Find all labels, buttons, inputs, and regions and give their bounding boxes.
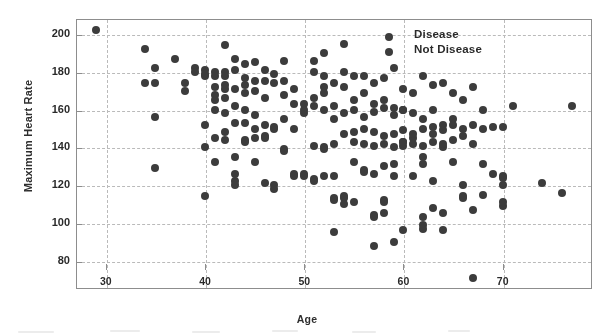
- data-point: [320, 89, 328, 97]
- data-point: [479, 191, 487, 199]
- data-point: [489, 170, 497, 178]
- legend-marker-icon: [385, 48, 393, 56]
- data-point: [479, 125, 487, 133]
- data-point: [409, 89, 417, 97]
- data-point: [221, 72, 229, 80]
- data-point: [479, 106, 487, 114]
- data-point: [201, 72, 209, 80]
- data-point: [439, 140, 447, 148]
- data-point: [350, 72, 358, 80]
- data-point: [241, 138, 249, 146]
- data-point: [370, 128, 378, 136]
- data-point: [350, 138, 358, 146]
- data-point: [390, 238, 398, 246]
- data-point: [360, 125, 368, 133]
- x-tick-mark: [403, 264, 404, 270]
- scan-artifact: [272, 330, 298, 332]
- x-tick-mark: [205, 264, 206, 270]
- x-tick-mark: [304, 264, 305, 270]
- data-point: [261, 179, 269, 187]
- y-tick-label: 80: [26, 254, 70, 266]
- data-point: [360, 113, 368, 121]
- data-point: [419, 142, 427, 150]
- gridline-horizontal: [77, 224, 591, 225]
- y-tick-mark: [77, 35, 82, 36]
- data-point: [390, 143, 398, 151]
- data-point: [390, 172, 398, 180]
- x-axis-label: Age: [0, 313, 614, 325]
- data-point: [320, 172, 328, 180]
- gridline-horizontal: [77, 186, 591, 187]
- data-point: [251, 134, 259, 142]
- gridline-horizontal: [77, 73, 591, 74]
- y-tick-label: 140: [26, 140, 70, 152]
- data-point: [221, 136, 229, 144]
- data-point: [509, 102, 517, 110]
- data-point: [221, 85, 229, 93]
- data-point: [370, 100, 378, 108]
- x-tick-mark: [503, 264, 504, 270]
- data-point: [280, 57, 288, 65]
- data-point: [419, 225, 427, 233]
- data-point: [211, 72, 219, 80]
- data-point: [469, 140, 477, 148]
- data-point: [360, 140, 368, 148]
- data-point: [409, 140, 417, 148]
- gridline-horizontal: [77, 111, 591, 112]
- y-tick-label: 120: [26, 178, 70, 190]
- x-tick-label: 30: [86, 275, 126, 287]
- y-tick-mark: [77, 148, 82, 149]
- data-point: [320, 106, 328, 114]
- data-point: [469, 121, 477, 129]
- data-point: [201, 121, 209, 129]
- data-point: [330, 172, 338, 180]
- data-point: [360, 89, 368, 97]
- data-point: [290, 125, 298, 133]
- gridline-horizontal: [77, 148, 591, 149]
- data-point: [370, 79, 378, 87]
- gridline-vertical: [504, 20, 505, 288]
- data-point: [499, 198, 507, 206]
- data-point: [310, 68, 318, 76]
- data-point: [261, 121, 269, 129]
- data-point: [310, 102, 318, 110]
- data-point: [370, 142, 378, 150]
- data-point: [429, 204, 437, 212]
- data-point: [370, 108, 378, 116]
- data-point: [429, 123, 437, 131]
- data-point: [171, 55, 179, 63]
- y-tick-mark: [77, 73, 82, 74]
- data-point: [469, 83, 477, 91]
- x-tick-mark: [106, 264, 107, 270]
- data-point: [231, 119, 239, 127]
- y-tick-label: 160: [26, 103, 70, 115]
- data-point: [320, 49, 328, 57]
- data-point: [390, 160, 398, 168]
- data-point: [449, 89, 457, 97]
- data-point: [280, 91, 288, 99]
- data-point: [370, 170, 378, 178]
- data-point: [429, 138, 437, 146]
- data-point: [340, 40, 348, 48]
- x-tick-label: 70: [483, 275, 523, 287]
- data-point: [310, 142, 318, 150]
- data-point: [380, 198, 388, 206]
- data-point: [390, 64, 398, 72]
- data-point: [568, 102, 576, 110]
- y-tick-label: 180: [26, 65, 70, 77]
- data-point: [241, 89, 249, 97]
- data-point: [330, 102, 338, 110]
- data-point: [310, 57, 318, 65]
- data-point: [429, 106, 437, 114]
- data-point: [211, 134, 219, 142]
- data-point: [300, 172, 308, 180]
- data-point: [360, 72, 368, 80]
- plot-area: [76, 19, 592, 289]
- data-point: [300, 106, 308, 114]
- data-point: [370, 213, 378, 221]
- gridline-vertical: [107, 20, 108, 288]
- legend-label: Not Disease: [414, 43, 482, 55]
- data-point: [251, 87, 259, 95]
- data-point: [211, 83, 219, 91]
- gridline-horizontal: [77, 262, 591, 263]
